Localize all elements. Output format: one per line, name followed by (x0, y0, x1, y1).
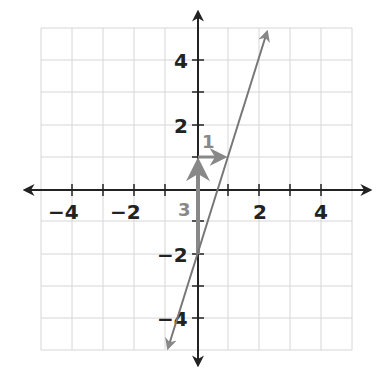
y-tick-label: −2 (157, 243, 188, 267)
x-tick-label: 4 (314, 200, 328, 224)
rise-label: 3 (178, 199, 191, 220)
coordinate-plane: −4 −2 2 4 4 2 −2 −4 3 1 (0, 0, 383, 386)
y-tick-label: −4 (157, 307, 188, 331)
run-label: 1 (202, 131, 215, 152)
x-tick-label: −4 (48, 200, 79, 224)
x-tick-label: −2 (110, 200, 141, 224)
x-tick-label: 2 (253, 200, 267, 224)
y-tick-label: 4 (174, 49, 188, 73)
y-tick-label: 2 (174, 114, 188, 138)
